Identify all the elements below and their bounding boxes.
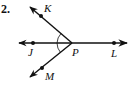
label-K: K [44, 3, 51, 14]
label-P: P [72, 47, 79, 58]
point-L [112, 41, 116, 45]
point-J [31, 41, 35, 45]
point-K [39, 14, 43, 18]
label-L: L [111, 48, 117, 59]
angle-arc-JPM [57, 43, 61, 53]
label-J: J [28, 47, 33, 58]
point-M [40, 66, 44, 70]
angle-arc-KPJ [57, 34, 61, 44]
label-M: M [45, 71, 54, 82]
